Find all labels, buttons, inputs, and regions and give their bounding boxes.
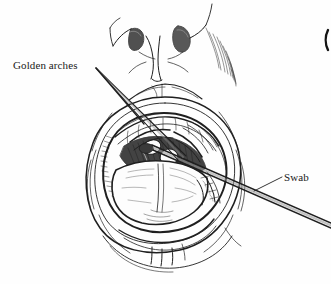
label-golden-arches: Golden arches [13,59,78,71]
throat-swab-illustration [0,0,331,284]
label-swab: Swab [284,171,309,183]
figure-container: Golden arches Swab [0,0,331,284]
